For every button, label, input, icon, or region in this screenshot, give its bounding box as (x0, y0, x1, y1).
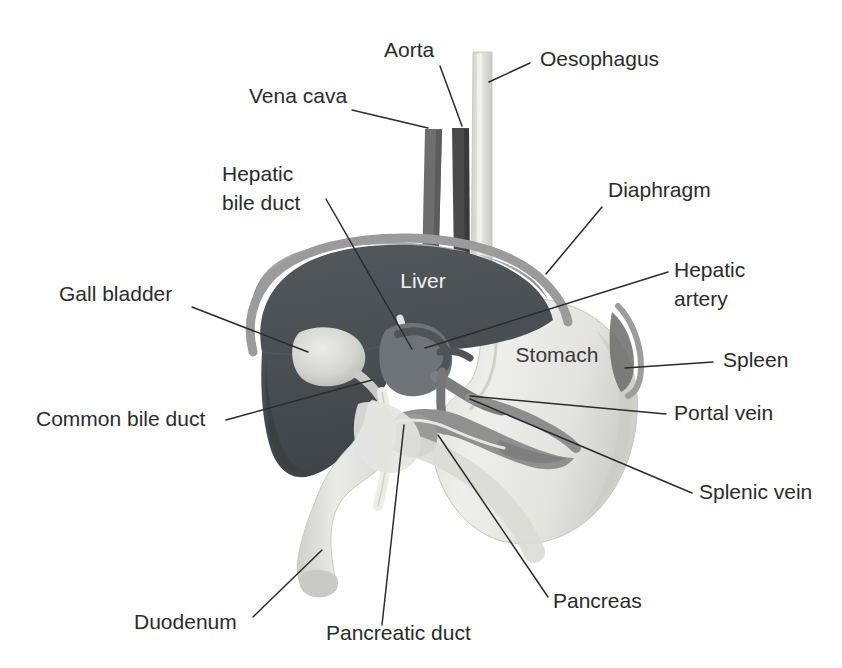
callout-label-hepatic-artery-line1: Hepatic (674, 258, 745, 281)
callout-label-splenic-vein: Splenic vein (699, 480, 812, 503)
callout-label-gall-bladder: Gall bladder (59, 282, 172, 305)
callout-label-duodenum: Duodenum (134, 610, 237, 633)
callout-label-vena-cava: Vena cava (249, 84, 347, 107)
callout-label-hepatic-bile-duct-line2: bile duct (222, 191, 300, 214)
callout-label-hepatic-artery-line2: artery (674, 287, 728, 310)
organ-label-liver: Liver (400, 269, 446, 292)
callout-label-pancreatic-duct: Pancreatic duct (326, 621, 471, 644)
callout-label-diaphragm: Diaphragm (608, 178, 711, 201)
anatomy-figure: Liver Stomach Aorta Oesophagus Vena cava… (0, 0, 842, 668)
leader-oesophagus (489, 63, 530, 82)
callout-label-pancreas: Pancreas (553, 589, 642, 612)
callout-label-oesophagus: Oesophagus (540, 47, 659, 70)
duodenum-end-opening (299, 570, 338, 598)
callout-label-common-bile-duct: Common bile duct (36, 407, 205, 430)
leader-diaphragm (546, 207, 602, 274)
leader-aorta (440, 66, 462, 126)
callout-label-spleen: Spleen (723, 348, 788, 371)
leader-vena-cava (352, 110, 428, 128)
illustration-group (250, 52, 641, 597)
callout-label-aorta: Aorta (384, 38, 435, 61)
anatomy-illustration: Liver Stomach Aorta Oesophagus Vena cava… (0, 0, 842, 668)
callout-label-portal-vein: Portal vein (674, 401, 773, 424)
organ-label-stomach: Stomach (516, 343, 599, 366)
callout-label-hepatic-bile-duct-line1: Hepatic (222, 162, 293, 185)
